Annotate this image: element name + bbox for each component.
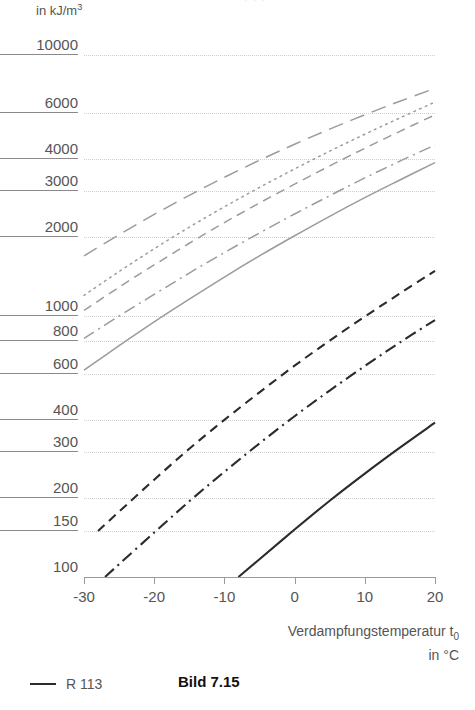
legend: R 113	[30, 676, 102, 692]
curve-gray-dotted	[84, 102, 435, 295]
x-axis-tick-label: -10	[202, 588, 246, 605]
x-axis-tick-label: -30	[62, 588, 106, 605]
chart-figure: · · · in kJ/m3 1001502003004006008001000…	[0, 0, 475, 710]
curve-gray-dashdot	[84, 145, 435, 338]
x-axis-tick-label: -20	[132, 588, 176, 605]
x-axis-tick-label: 0	[273, 588, 317, 605]
legend-label-r113: R 113	[66, 676, 102, 692]
x-axis-tick	[295, 577, 296, 584]
curve-gray-dashed	[84, 115, 435, 311]
x-axis-tick	[435, 577, 436, 584]
x-axis-title: Verdampfungstemperatur t0 in °C	[288, 622, 459, 665]
curve-black-dashed	[98, 271, 435, 531]
curve-gray-solid	[84, 163, 435, 371]
curve-black-solid	[238, 423, 435, 577]
curve-gray-longdash	[84, 88, 435, 255]
x-axis-tick-label: 20	[413, 588, 457, 605]
x-axis-tick	[154, 577, 155, 584]
figure-caption: Bild 7.15	[178, 673, 240, 690]
x-axis-tick	[224, 577, 225, 584]
x-axis-title-subscript: 0	[453, 631, 459, 642]
curve-black-dashdot	[105, 320, 435, 577]
x-axis-tick	[365, 577, 366, 584]
x-axis-tick-label: 10	[343, 588, 387, 605]
x-axis-tick	[84, 577, 85, 584]
x-axis-line	[84, 577, 436, 578]
x-axis-title-line2: in °C	[429, 647, 460, 663]
x-axis-title-line1: Verdampfungstemperatur t	[288, 623, 454, 639]
legend-line-swatch-r113	[30, 683, 56, 685]
